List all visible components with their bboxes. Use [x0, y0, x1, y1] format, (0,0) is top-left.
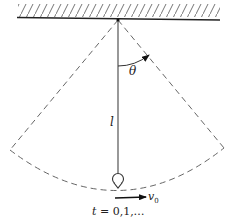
velocity-arrow [115, 197, 146, 198]
angle-label-theta: θ [129, 65, 136, 77]
ceiling-hatching [18, 4, 220, 17]
pivot-point [116, 18, 119, 21]
length-label-l: l [110, 116, 114, 128]
right-boundary-line [118, 20, 224, 148]
velocity-subscript: 0 [154, 197, 158, 205]
pendulum-diagram [0, 0, 231, 223]
velocity-label: v0 [148, 191, 159, 205]
time-values: = 0,1,… [96, 205, 144, 218]
pendulum-bob [113, 174, 124, 189]
left-boundary-line [10, 20, 118, 150]
time-caption: t = 0,1,… [92, 206, 145, 217]
ceiling [17, 4, 220, 20]
